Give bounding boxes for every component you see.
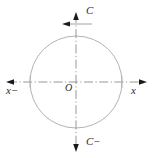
axis-label-x-negative: x− <box>6 85 18 96</box>
arrow-right-icon <box>139 79 147 85</box>
arrow-left-small-icon <box>62 21 70 26</box>
axis-label-c-positive: C <box>86 5 93 16</box>
origin-label: O <box>65 83 72 93</box>
arrow-down-icon <box>73 144 79 152</box>
figure-container: C C− x− x O <box>0 0 153 158</box>
axis-label-x-positive: x <box>131 85 136 96</box>
arrow-up-icon <box>73 12 79 20</box>
axis-label-c-negative: C− <box>86 136 101 147</box>
diagram-canvas <box>0 0 153 158</box>
